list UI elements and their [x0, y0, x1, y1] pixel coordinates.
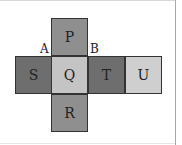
face-q-label: Q [64, 67, 75, 83]
face-t-label: T [102, 67, 111, 83]
frame-top-border [0, 0, 175, 1]
vertex-label-a: A [40, 43, 49, 55]
face-r: R [51, 94, 88, 132]
face-p: P [51, 18, 88, 56]
face-q: Q [51, 56, 88, 94]
frame-bottom-border [0, 143, 175, 144]
face-u: U [125, 56, 162, 94]
face-s: S [15, 56, 52, 94]
face-r-label: R [64, 105, 75, 121]
vertex-label-b: B [90, 43, 99, 55]
face-s-label: S [29, 67, 39, 83]
face-u-label: U [138, 67, 150, 83]
face-p-label: P [65, 29, 74, 45]
face-t: T [88, 56, 125, 94]
frame-right-border [175, 0, 176, 145]
